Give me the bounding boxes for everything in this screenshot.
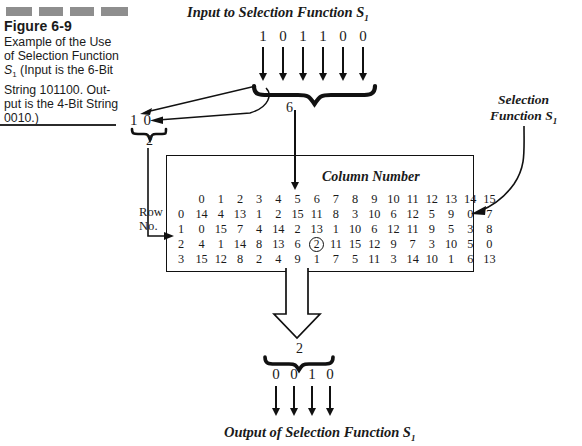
input-bit: 0 [273,28,293,45]
column-header-cell: 6 [307,192,326,207]
header-corner-cell [176,192,192,207]
table-cell: 0 [192,222,211,237]
output-bit: 0 [321,366,339,383]
table-cell: 13 [480,252,499,267]
table-cell: 11 [365,252,384,267]
table-cell: 8 [480,222,499,237]
selection-function-callout-label: Selection Function S1 [490,92,557,129]
table-cell: 10 [441,237,460,252]
output-title-subscript: 1 [411,433,416,443]
row-header-cell: 0 [176,207,192,222]
column-header-cell: 1 [211,192,230,207]
column-header-cell: 4 [269,192,288,207]
figure-caption: Example of the Use of Selection Function… [4,35,120,125]
input-bit: 0 [353,28,373,45]
table-cell: 4 [250,222,269,237]
table-cell: 15 [211,222,230,237]
column-number-label: Column Number [322,169,420,185]
row-header-cell: 3 [176,252,192,267]
column-header-cell: 7 [326,192,345,207]
table-cell: 12 [403,207,422,222]
caption-line-3: (Input is the 6-Bit [17,63,113,77]
figure-number: Figure 6-9 [4,18,72,34]
table-cell: 5 [346,252,365,267]
table-row: 24114813621115129731050 [176,237,499,252]
table-cell: 1 [326,222,345,237]
table-cell: 9 [422,222,441,237]
table-cell: 13 [230,207,249,222]
table-cell: 2 [269,207,288,222]
output-title: Output of Selection Function S1 [224,424,415,443]
caption-line-2: of Selection Function [4,49,119,63]
table-cell: 1 [307,252,326,267]
table-cell: 3 [384,252,403,267]
caption-line-6: 0010.) [4,111,39,125]
table-cell: 11 [403,222,422,237]
table-cell: 10 [365,207,384,222]
caption-s-symbol: S [4,63,12,77]
column-header-cell: 11 [403,192,422,207]
table-cell: 2 [288,222,307,237]
table-cell: 13 [269,237,288,252]
table-cell: 1 [211,237,230,252]
table-cell: 4 [269,252,288,267]
input-bit-string: 101100 [253,28,373,45]
selection-callout-line-1: Selection [498,92,549,107]
s-box-table: 0123456789101112131415014413121511831061… [176,192,499,267]
output-bit: 1 [303,366,321,383]
table-cell: 9 [384,237,403,252]
output-bit: 0 [285,366,303,383]
table-cell: 14 [192,207,211,222]
row-bits-leader-lines [130,82,390,127]
table-cell: 7 [326,252,345,267]
table-cell: 5 [461,237,480,252]
table-cell: 12 [384,222,403,237]
circled-value: 2 [309,237,324,252]
row-header-cell: 1 [176,222,192,237]
input-bit: 1 [293,28,313,45]
table-cell: 7 [403,237,422,252]
caption-line-1: Example of the Use [4,35,111,49]
table-cell: 11 [307,207,326,222]
table-cell: 10 [422,252,441,267]
table-cell: 6 [384,207,403,222]
table-cell: 12 [211,252,230,267]
table-cell: 5 [441,222,460,237]
table-cell: 14 [230,237,249,252]
table-row: 10157414213110612119538 [176,222,499,237]
output-title-text: Output of Selection Function S [224,424,411,440]
column-header-cell: 2 [230,192,249,207]
selection-callout-subscript: 1 [553,116,558,126]
table-cell: 13 [307,222,326,237]
table-cell: 4 [192,237,211,252]
table-cell: 8 [326,207,345,222]
caption-line-5: put is the 4-Bit String [4,97,118,111]
table-cell: 8 [230,252,249,267]
table-cell: 14 [403,252,422,267]
input-bit: 1 [313,28,333,45]
table-cell: 7 [230,222,249,237]
row-no-label: Row No. [139,206,163,233]
row-select-bits: 10 [130,112,157,129]
row-select-brace-label: 2 [146,133,153,149]
table-cell: 1 [250,207,269,222]
column-header-cell: 0 [192,192,211,207]
row-select-bit: 0 [144,112,158,128]
table-cell: 4 [211,207,230,222]
column-header-cell: 3 [250,192,269,207]
input-title-subscript: 1 [364,13,369,23]
table-cell: 3 [461,222,480,237]
output-bit-string: 0010 [267,366,339,383]
row-no-line-1: Row [139,205,163,219]
column-header-cell: 13 [441,192,460,207]
table-cell: 0 [480,237,499,252]
table-cell: 14 [269,222,288,237]
table-cell: 12 [365,237,384,252]
selection-function-callout-arrow [462,126,542,218]
column-header-cell: 9 [365,192,384,207]
table-cell: 10 [346,222,365,237]
input-title: Input to Selection Function S1 [187,4,369,23]
table-cell: 9 [288,252,307,267]
table-row: 01441312151183106125907 [176,207,499,222]
input-bit: 0 [333,28,353,45]
